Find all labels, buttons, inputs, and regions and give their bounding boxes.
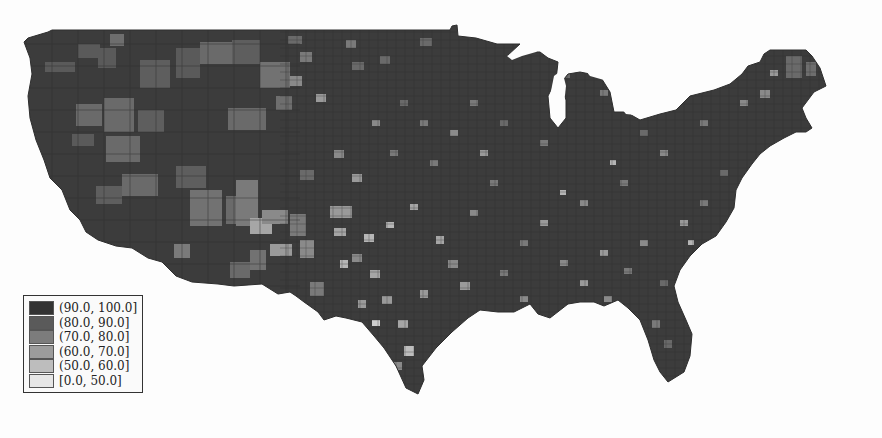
legend-label: (60.0, 70.0] (59, 345, 129, 359)
legend-item-50-60: (50.0, 60.0] (29, 359, 138, 374)
legend-label: (50.0, 60.0] (59, 359, 129, 373)
legend-swatch (29, 359, 54, 373)
legend-item-70-80: (70.0, 80.0] (29, 330, 138, 345)
legend-label: [0.0, 50.0] (59, 374, 122, 388)
legend-label: (70.0, 80.0] (59, 330, 129, 344)
map-legend: (90.0, 100.0] (80.0, 90.0] (70.0, 80.0] … (23, 295, 143, 393)
legend-swatch (29, 301, 54, 315)
legend-swatch (29, 374, 54, 388)
legend-swatch (29, 316, 54, 330)
legend-swatch (29, 345, 54, 359)
legend-label: (90.0, 100.0] (59, 301, 137, 315)
legend-swatch (29, 330, 54, 344)
legend-item-60-70: (60.0, 70.0] (29, 345, 138, 360)
legend-item-0-50: [0.0, 50.0] (29, 374, 138, 389)
legend-label: (80.0, 90.0] (59, 316, 129, 330)
legend-item-90-100: (90.0, 100.0] (29, 301, 138, 316)
legend-item-80-90: (80.0, 90.0] (29, 316, 138, 331)
